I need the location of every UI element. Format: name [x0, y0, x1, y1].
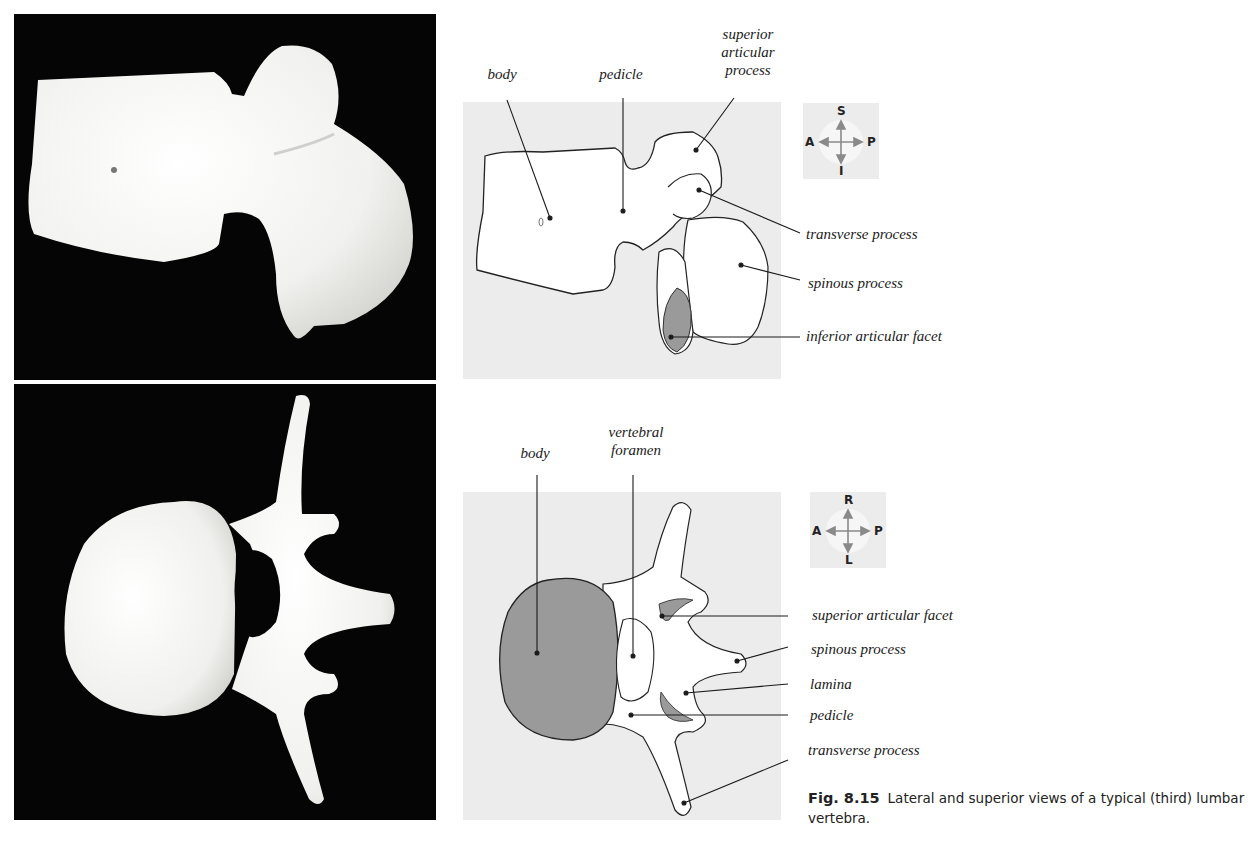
orientation-compass-lateral: S I A P	[803, 103, 879, 179]
compass-left-label: A	[812, 524, 821, 538]
label-lateral-inferior-articular-facet: inferior articular facet	[806, 328, 942, 345]
figure-number: Fig. 8.15	[808, 790, 880, 806]
label-superior-articular-facet: superior articular facet	[812, 607, 953, 624]
label-superior-spinous-process: spinous process	[811, 641, 906, 658]
label-superior-transverse-process: transverse process	[808, 742, 920, 759]
compass-bottom-label: I	[839, 164, 843, 178]
label-superior-pedicle: pedicle	[810, 707, 853, 724]
figure-caption: Fig. 8.15Lateral and superior views of a…	[808, 788, 1248, 828]
label-superior-body: body	[520, 445, 549, 462]
compass-right-label: P	[867, 135, 876, 149]
orientation-compass-superior: R L A P	[810, 492, 886, 568]
compass-right-label: P	[874, 524, 883, 538]
label-lateral-transverse-process: transverse process	[806, 226, 918, 243]
compass-left-label: A	[805, 135, 814, 149]
label-lateral-pedicle: pedicle	[599, 66, 642, 83]
compass-top-label: S	[837, 104, 846, 118]
compass-top-label: R	[844, 493, 853, 507]
compass-bottom-label: L	[845, 553, 853, 567]
label-lateral-body: body	[487, 66, 516, 83]
label-lateral-spinous-process: spinous process	[808, 275, 903, 292]
label-superior-lamina: lamina	[810, 676, 852, 693]
